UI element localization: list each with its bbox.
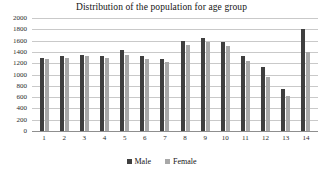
bar-group (256, 18, 276, 131)
bar-female-8 (186, 45, 190, 131)
x-axis-tick-label: 9 (195, 133, 215, 145)
bar-female-2 (65, 58, 69, 131)
bar-female-5 (125, 55, 129, 131)
bar-male-6 (140, 56, 144, 131)
bar-group (74, 18, 94, 131)
bar-group (115, 18, 135, 131)
y-axis-tick-label: 0 (24, 127, 28, 135)
bar-male-12 (261, 67, 265, 131)
bar-male-2 (60, 56, 64, 131)
legend-item-female[interactable]: Female (165, 157, 197, 166)
y-axis-tick-label: 1600 (13, 37, 27, 45)
bar-male-1 (40, 58, 44, 131)
x-axis-tick-label: 1 (34, 133, 54, 145)
bar-group (175, 18, 195, 131)
bar-male-14 (301, 29, 305, 131)
bar-female-11 (246, 61, 250, 131)
x-axis-tick-label: 14 (296, 133, 316, 145)
legend-swatch-icon (127, 159, 132, 164)
y-axis-tick-label: 1200 (13, 59, 27, 67)
bar-female-1 (45, 59, 49, 131)
x-axis-tick-label: 4 (94, 133, 114, 145)
legend-label: Male (135, 157, 151, 166)
x-axis-tick-label: 6 (135, 133, 155, 145)
bar-female-10 (226, 46, 230, 131)
chart-legend: MaleFemale (0, 157, 323, 166)
plot-area (32, 18, 318, 131)
x-axis-tick-label: 5 (115, 133, 135, 145)
x-axis-tick-label: 8 (175, 133, 195, 145)
bar-group (135, 18, 155, 131)
bar-group (54, 18, 74, 131)
bar-female-12 (266, 77, 270, 131)
y-axis-tick-label: 1800 (13, 25, 27, 33)
bar-group (235, 18, 255, 131)
legend-item-male[interactable]: Male (127, 157, 151, 166)
bar-group (215, 18, 235, 131)
bar-chart: Distribution of the population for age g… (0, 0, 323, 176)
y-axis-tick-label: 600 (17, 93, 28, 101)
x-axis-tick-label: 2 (54, 133, 74, 145)
y-axis-tick-label: 2000 (13, 14, 27, 22)
bar-group (276, 18, 296, 131)
bar-female-6 (145, 59, 149, 131)
bar-male-13 (281, 89, 285, 131)
x-axis-tick-label: 3 (74, 133, 94, 145)
y-axis-tick-label: 1000 (13, 71, 27, 79)
x-axis-tick-label: 11 (235, 133, 255, 145)
legend-swatch-icon (165, 159, 170, 164)
bar-female-14 (306, 52, 310, 131)
x-axis-tick-label: 7 (155, 133, 175, 145)
bar-group (155, 18, 175, 131)
bar-female-13 (286, 96, 290, 131)
y-axis-tick-label: 400 (17, 104, 28, 112)
bar-group (34, 18, 54, 131)
chart-title: Distribution of the population for age g… (0, 1, 323, 13)
bar-female-3 (85, 56, 89, 131)
x-axis-tick-label: 13 (276, 133, 296, 145)
bar-male-11 (241, 56, 245, 131)
x-axis-tick-label: 10 (215, 133, 235, 145)
bar-female-9 (206, 42, 210, 131)
y-axis: 2000180016001400120010008006004002000 (0, 18, 29, 131)
bar-male-8 (181, 41, 185, 131)
bar-male-9 (201, 38, 205, 131)
x-axis: 1234567891011121314 (32, 133, 318, 145)
bar-group (195, 18, 215, 131)
bar-male-10 (221, 42, 225, 131)
gridline (32, 131, 318, 132)
bar-group (94, 18, 114, 131)
x-axis-tick-label: 12 (256, 133, 276, 145)
bar-male-4 (100, 56, 104, 131)
y-axis-tick-label: 200 (17, 116, 28, 124)
bar-male-7 (160, 59, 164, 131)
bars-layer (32, 18, 318, 131)
legend-label: Female (173, 157, 197, 166)
bar-female-7 (165, 62, 169, 131)
bar-male-5 (120, 50, 124, 131)
y-axis-tick-label: 800 (17, 82, 28, 90)
y-axis-tick-label: 1400 (13, 48, 27, 56)
bar-female-4 (105, 58, 109, 131)
bar-male-3 (80, 55, 84, 131)
bar-group (296, 18, 316, 131)
